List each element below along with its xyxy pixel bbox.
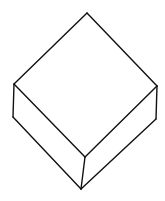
edge-left-top-to-left-bottom xyxy=(13,84,14,117)
box-edges xyxy=(13,13,157,189)
edge-front-top-to-front-bottom xyxy=(81,157,85,189)
edge-right-top-to-front-top xyxy=(85,86,157,157)
diagram-canvas xyxy=(0,0,165,201)
edge-top-to-right-top xyxy=(87,13,157,86)
edge-top-to-left-top xyxy=(14,13,87,84)
edge-right-bottom-to-front-bottom xyxy=(81,119,156,189)
isometric-box-drawing xyxy=(0,0,165,201)
edge-left-bottom-to-front-bottom xyxy=(13,117,81,189)
edge-left-top-to-front-top xyxy=(14,84,85,157)
edge-right-top-to-right-bottom xyxy=(156,86,157,119)
